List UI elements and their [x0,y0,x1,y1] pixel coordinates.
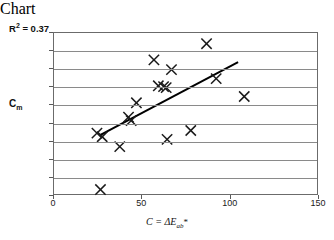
x-axis-title: C = ΔEab* [0,216,334,230]
gridline-y [54,51,317,52]
scatter-chart: R2 = 0.37 Cm 11.21.41.61.822.22.42.62.8 … [0,18,334,240]
data-point-marker [131,98,141,108]
gridline-y [54,160,317,161]
x-tick-label: 100 [215,198,245,208]
y-tick-mark [49,141,53,142]
y-tick-mark [49,159,53,160]
gridline-y [54,105,317,106]
plot-area [53,32,318,195]
data-point-marker [149,55,159,65]
data-point-marker [92,128,102,138]
data-point-marker [97,132,107,142]
x-tick-label: 0 [38,198,68,208]
x-tick-mark [230,195,231,199]
r-squared-annotation: R2 = 0.37 [9,22,49,34]
x-axis-title-text: C [146,216,153,227]
y-tick-mark [49,50,53,51]
y-tick-mark [49,123,53,124]
data-point-marker [211,73,221,83]
data-markers-layer [54,33,317,194]
data-point-marker [186,125,196,135]
data-point-marker [201,39,211,49]
gridline-y [54,178,317,179]
y-tick-mark [49,177,53,178]
data-point-marker [239,91,249,101]
data-point-marker [162,134,172,144]
gridline-y [54,124,317,125]
x-axis-title-delta-e: ΔEab* [164,216,187,227]
gridline-y [54,69,317,70]
x-tick-label: 150 [303,198,333,208]
x-tick-mark [318,195,319,199]
gridline-y [54,142,317,143]
y-tick-mark [49,68,53,69]
y-tick-mark [49,86,53,87]
x-tick-mark [53,195,54,199]
y-tick-mark [49,32,53,33]
y-tick-mark [49,104,53,105]
x-tick-mark [141,195,142,199]
x-tick-label: 50 [126,198,156,208]
y-axis-title: Cm [9,98,22,111]
gridline-y [54,87,317,88]
data-point-marker [95,184,105,194]
